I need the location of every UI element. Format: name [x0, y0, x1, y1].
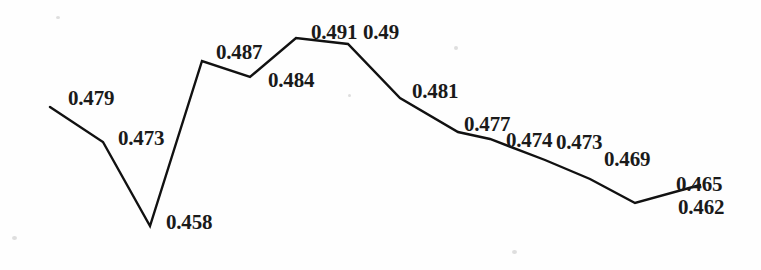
scan-speck [56, 16, 60, 19]
data-point-label: 0.477 [464, 114, 510, 135]
data-point-label: 0.474 [506, 130, 552, 151]
data-point-label: 0.487 [216, 42, 262, 63]
data-point-label: 0.458 [166, 212, 212, 233]
data-point-label: 0.479 [68, 88, 114, 109]
data-point-label: 0.469 [604, 149, 650, 170]
line-chart-figure: 0.479 0.473 0.458 0.487 0.484 0.491 0.49… [0, 0, 761, 270]
scan-speck [454, 46, 458, 50]
data-point-label: 0.473 [556, 132, 602, 153]
data-point-label: 0.491 [311, 22, 357, 43]
data-point-label: 0.484 [268, 70, 314, 91]
data-point-label: 0.49 [363, 22, 399, 43]
data-point-label: 0.473 [118, 128, 164, 149]
scan-speck [348, 94, 351, 97]
data-point-label: 0.462 [678, 197, 724, 218]
scan-speck [512, 250, 517, 254]
data-point-label: 0.465 [676, 174, 722, 195]
data-point-label: 0.481 [412, 81, 458, 102]
scan-speck [12, 236, 17, 240]
